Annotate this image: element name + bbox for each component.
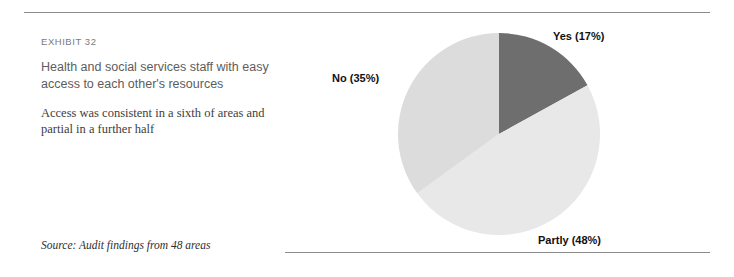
pie-chart-svg xyxy=(398,33,600,235)
pie-label-yes-value: (17%) xyxy=(575,30,604,42)
exhibit-figure: EXHIBIT 32 Health and social services st… xyxy=(0,0,734,277)
exhibit-subtitle: Access was consistent in a sixth of area… xyxy=(41,105,273,137)
pie-label-partly-value: (48%) xyxy=(572,234,601,246)
pie-label-yes-name: Yes xyxy=(553,30,572,42)
exhibit-number-label: EXHIBIT 32 xyxy=(41,36,273,47)
exhibit-text-column: EXHIBIT 32 Health and social services st… xyxy=(41,36,273,137)
exhibit-title: Health and social services staff with ea… xyxy=(41,59,273,93)
pie-label-partly-name: Partly xyxy=(538,234,569,246)
top-divider xyxy=(24,12,710,13)
source-note: Source: Audit findings from 48 areas xyxy=(41,239,210,251)
pie-label-no-value: (35%) xyxy=(350,72,379,84)
pie-label-no: No (35%) xyxy=(332,72,379,84)
pie-chart-area: Yes (17%) No (35%) Partly (48%) xyxy=(285,14,710,250)
pie-label-yes: Yes (17%) xyxy=(553,30,604,42)
pie-label-no-name: No xyxy=(332,72,347,84)
bottom-divider xyxy=(285,252,710,253)
pie-chart xyxy=(398,33,600,235)
pie-label-partly: Partly (48%) xyxy=(538,234,601,246)
